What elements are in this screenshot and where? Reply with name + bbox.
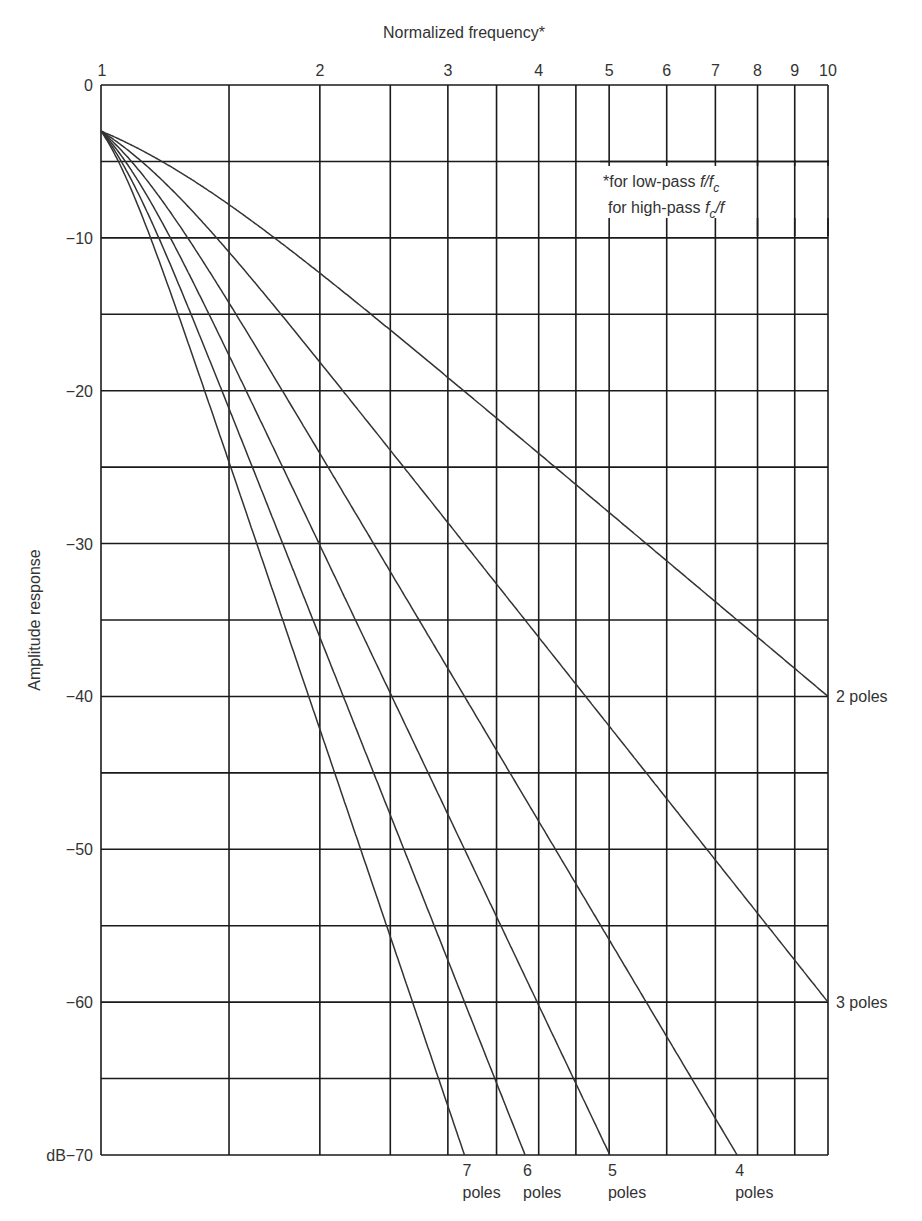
grid-lines <box>101 85 828 1155</box>
y-tick-label: 0 <box>84 77 93 94</box>
y-tick-label: −10 <box>66 230 93 247</box>
pole-labels: 2 poles3 poles4poles5poles6poles7poles <box>463 688 888 1201</box>
pole-word-5: poles <box>608 1184 646 1201</box>
pole-label-2: 2 poles <box>836 688 888 705</box>
y-tick-labels: 0−10−20−30−40−50−60dB−70 <box>46 77 93 1164</box>
y-tick-label: −50 <box>66 841 93 858</box>
pole-number-7: 7 <box>463 1162 472 1179</box>
pole-number-4: 4 <box>735 1162 744 1179</box>
pole-word-4: poles <box>735 1184 773 1201</box>
x-tick-label: 9 <box>790 62 799 79</box>
y-tick-label: −20 <box>66 383 93 400</box>
y-tick-label: −40 <box>66 688 93 705</box>
x-tick-label: 4 <box>534 62 543 79</box>
pole-number-5: 5 <box>608 1162 617 1179</box>
x-tick-labels: 12345678910 <box>98 62 837 79</box>
y-tick-label: dB−70 <box>46 1147 93 1164</box>
pole-word-6: poles <box>523 1184 561 1201</box>
x-tick-label: 7 <box>711 62 720 79</box>
amplitude-response-chart: Normalized frequency* Amplitude response… <box>0 0 922 1221</box>
y-axis-title: Amplitude response <box>26 549 43 691</box>
x-tick-label: 1 <box>98 62 107 79</box>
x-tick-label: 6 <box>662 62 671 79</box>
curve-3-poles <box>101 131 828 1002</box>
y-tick-label: −30 <box>66 536 93 553</box>
x-axis-title: Normalized frequency* <box>383 24 545 41</box>
x-tick-label: 5 <box>605 62 614 79</box>
x-tick-label: 3 <box>443 62 452 79</box>
x-tick-label: 10 <box>819 62 837 79</box>
x-tick-label: 8 <box>753 62 762 79</box>
pole-label-3: 3 poles <box>836 994 888 1011</box>
pole-word-7: poles <box>463 1184 501 1201</box>
x-tick-label: 2 <box>315 62 324 79</box>
pole-number-6: 6 <box>523 1162 532 1179</box>
y-tick-label: −60 <box>66 994 93 1011</box>
